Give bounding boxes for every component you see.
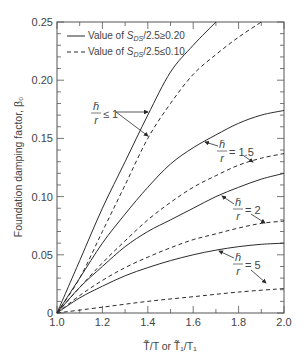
annotation-numerator: h̄ bbox=[93, 100, 99, 112]
annotation-denominator: r bbox=[236, 265, 241, 277]
annotation-numerator: h̄ bbox=[235, 251, 241, 263]
solid-curve bbox=[57, 22, 216, 313]
y-tick-label: 0.25 bbox=[32, 16, 53, 28]
annotation-relation: ≤ 1 bbox=[103, 108, 118, 120]
annotation-arrow bbox=[251, 270, 266, 283]
y-tick-label: 0.20 bbox=[32, 74, 53, 86]
annotation-denominator: r bbox=[220, 152, 225, 164]
x-tick-label: 1.4 bbox=[140, 316, 155, 328]
x-tick-label: 1.2 bbox=[95, 316, 110, 328]
y-tick-label: 0.05 bbox=[32, 249, 53, 261]
y-tick-label: 0.10 bbox=[32, 191, 53, 203]
x-tick-label: 1.6 bbox=[186, 316, 201, 328]
dashed-curve bbox=[57, 22, 261, 313]
legend: Value of SDS/2.5≥0.20Value of SDS/2.5≤0.… bbox=[67, 30, 185, 58]
annotation-numerator: h̄ bbox=[235, 196, 241, 208]
annotation-arrow bbox=[222, 196, 234, 204]
legend-label: Value of SDS/2.5≥0.20 bbox=[88, 30, 185, 42]
annotation-relation: = 1.5 bbox=[229, 146, 254, 158]
legend-label: Value of SDS/2.5≤0.10 bbox=[88, 46, 185, 58]
y-axis-label: Foundation damping factor, β₀ bbox=[12, 97, 24, 238]
annotation-relation: = 5 bbox=[245, 259, 261, 271]
damping-factor-chart: 1.01.21.41.61.82.000.050.100.150.200.25 … bbox=[0, 0, 304, 362]
y-tick-label: 0 bbox=[47, 307, 53, 319]
annotation-denominator: r bbox=[236, 210, 241, 222]
annotation-denominator: r bbox=[94, 114, 99, 126]
y-tick-label: 0.15 bbox=[32, 132, 53, 144]
x-axis-label: T̃/T or T̃₁/T₁ bbox=[143, 340, 197, 352]
annotation-arrow bbox=[219, 251, 234, 258]
curve-annotations: h̄r≤ 1h̄r= 1.5h̄r= 2h̄r= 5 bbox=[91, 100, 266, 283]
solid-curve bbox=[57, 243, 284, 313]
annotation-arrow bbox=[205, 142, 218, 146]
annotation-relation: = 2 bbox=[245, 204, 261, 216]
x-tick-label: 1.8 bbox=[231, 316, 246, 328]
annotation-numerator: h̄ bbox=[219, 138, 225, 150]
x-tick-label: 2.0 bbox=[276, 316, 291, 328]
